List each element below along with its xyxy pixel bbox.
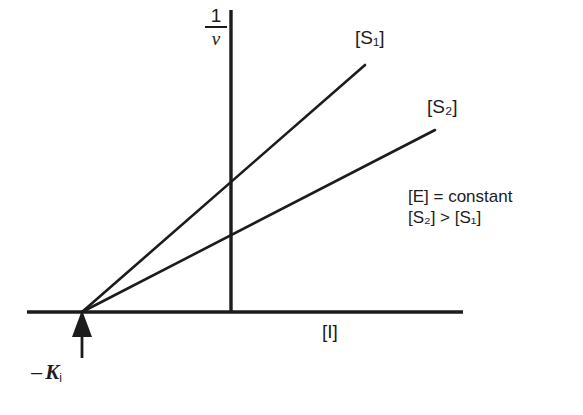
annotation-line-substrate: [S₂] > [S₁]: [408, 209, 512, 226]
ki-minus-sign: –: [31, 361, 45, 383]
ki-symbol: K: [45, 360, 59, 384]
curve-label-s2: [S₂]: [427, 97, 458, 116]
y-axis-label: 1 ν: [196, 6, 236, 48]
x-axis-label: [I]: [322, 322, 338, 341]
y-axis-label-denominator: ν: [196, 28, 236, 48]
y-axis-label-numerator: 1: [196, 6, 236, 26]
dixon-plot-figure: 1 ν [I] [S₁] [S₂] –Ki [E] = constant [S₂…: [0, 0, 583, 415]
ki-pointer-arrowhead-icon: [72, 310, 92, 337]
ki-intercept-label: –Ki: [31, 362, 62, 384]
curve-label-s1: [S₁]: [355, 28, 385, 47]
annotation-line-enzyme: [E] = constant: [408, 188, 512, 205]
ki-subscript: i: [59, 371, 62, 385]
annotation-block: [E] = constant [S₂] > [S₁]: [408, 188, 512, 230]
